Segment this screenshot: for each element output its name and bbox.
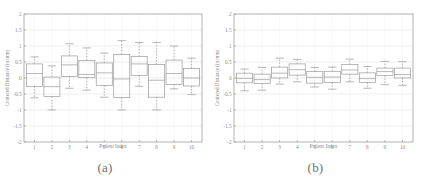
y-tick-label: 0.5 [225, 59, 232, 65]
y-tick-label: -1.5 [13, 123, 22, 129]
x-tick-label: 3 [278, 144, 281, 150]
x-tick-label: 2 [51, 144, 54, 150]
y-tick-label: -1.5 [223, 123, 232, 129]
y-tick-label: 1.5 [15, 27, 22, 33]
y-tick-label: -2 [17, 139, 22, 145]
y-tick-label: -1 [17, 107, 22, 113]
y-tick-label: 2 [229, 11, 232, 17]
x-tick-label: 7 [138, 144, 141, 150]
figure-container: -2-1.5-1-0.500.511.5212345678910Patient … [0, 0, 421, 185]
x-tick-label: 3 [68, 144, 71, 150]
y-tick-label: 2 [19, 11, 22, 17]
x-tick-label: 2 [261, 144, 264, 150]
x-tick-label: 1 [33, 144, 36, 150]
y-tick-label: -0.5 [13, 91, 22, 97]
y-tick-label: 1 [19, 43, 22, 49]
x-tick-label: 9 [384, 144, 387, 150]
x-tick-label: 4 [296, 144, 299, 150]
y-tick-label: 0 [229, 75, 232, 81]
y-tick-label: 0 [19, 75, 22, 81]
panel-b-caption: (b) [210, 160, 421, 176]
x-tick-label: 8 [366, 144, 369, 150]
boxplot-a: -2-1.5-1-0.500.511.5212345678910Patient … [0, 0, 210, 160]
x-tick-label: 9 [173, 144, 176, 150]
x-tick-label: 10 [400, 144, 406, 150]
x-tick-label: 4 [86, 144, 89, 150]
x-tick-label: 7 [349, 144, 352, 150]
box-group [307, 67, 323, 87]
y-axis-title: Centered Distance (in mm) [214, 50, 221, 107]
y-tick-label: -0.5 [223, 91, 232, 97]
x-axis-title: Patient Index [310, 143, 338, 149]
x-tick-label: 10 [189, 144, 195, 150]
x-tick-label: 1 [243, 144, 246, 150]
panel-a-caption: (a) [0, 160, 210, 176]
y-tick-label: 1.5 [225, 27, 232, 33]
boxplot-b: -2-1.5-1-0.500.511.5212345678910Patient … [210, 0, 421, 160]
y-tick-label: -1 [227, 107, 232, 113]
y-axis-title: Centered Distance (in mm) [4, 50, 11, 107]
y-tick-label: -2 [227, 139, 232, 145]
y-tick-label: 0.5 [15, 59, 22, 65]
y-tick-label: 1 [229, 43, 232, 49]
panel-b: -2-1.5-1-0.500.511.5212345678910Patient … [210, 0, 421, 185]
panel-a: -2-1.5-1-0.500.511.5212345678910Patient … [0, 0, 210, 185]
x-tick-label: 8 [155, 144, 158, 150]
x-axis-title: Patient Index [99, 143, 127, 149]
